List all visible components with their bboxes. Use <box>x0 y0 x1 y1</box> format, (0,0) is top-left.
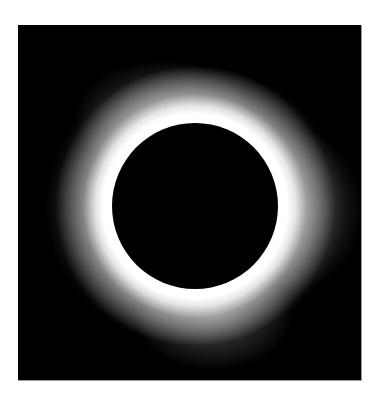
eclipse-photo <box>18 25 362 381</box>
moon-disk <box>112 123 278 289</box>
